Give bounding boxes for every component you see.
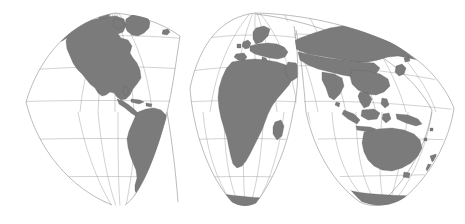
land-tasmania [403,172,410,178]
land-pacific-islands-2 [424,138,427,141]
world-map-figure [0,0,465,224]
map-canvas [0,0,465,224]
land-hokkaido [404,57,410,62]
land-ireland [237,44,241,48]
land-pacific-islands [430,128,433,131]
